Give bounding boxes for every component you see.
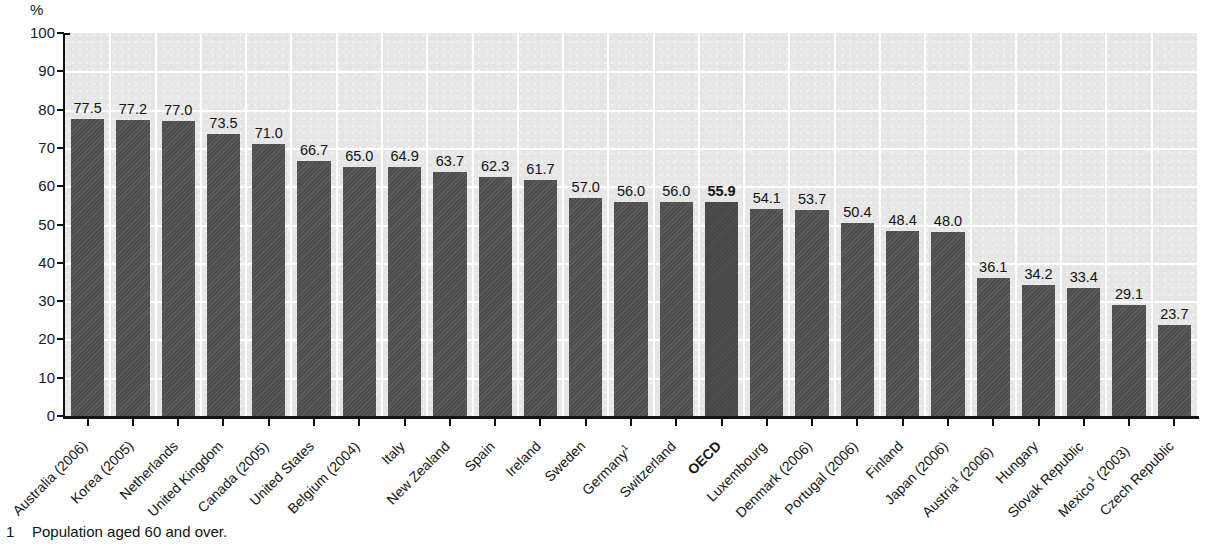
- x-axis-tick: [268, 419, 270, 426]
- y-axis-tick: [57, 415, 64, 417]
- bar: [614, 202, 647, 416]
- y-axis-tick: [57, 70, 64, 72]
- gridline-vertical: [653, 33, 655, 416]
- gridline-vertical: [517, 33, 519, 416]
- gridline-vertical: [472, 33, 474, 416]
- y-axis-tick-label: 30: [9, 293, 55, 308]
- x-axis-category-label: Spain: [462, 439, 498, 475]
- bar: [705, 202, 738, 416]
- bar: [433, 172, 466, 416]
- y-axis-tick-label: 20: [9, 331, 55, 346]
- gridline-vertical: [562, 33, 564, 416]
- bar: [388, 167, 421, 416]
- x-axis-tick: [132, 419, 134, 426]
- y-axis-tick-label: 60: [9, 178, 55, 193]
- bar: [931, 232, 964, 416]
- bar: [750, 209, 783, 416]
- bar: [252, 144, 285, 416]
- x-axis-tick: [539, 419, 541, 426]
- x-axis-category-label: Sweden: [542, 439, 588, 485]
- y-axis-tick: [57, 185, 64, 187]
- footnote-marker: 1: [6, 523, 32, 540]
- y-axis-tick-label: 50: [9, 217, 55, 232]
- gridline-vertical: [109, 33, 111, 416]
- gridline-horizontal: [65, 71, 1197, 73]
- x-axis-tick: [404, 419, 406, 426]
- bar: [841, 223, 874, 416]
- gridline-vertical: [698, 33, 700, 416]
- x-axis-category-label: OECD: [685, 439, 724, 478]
- bar: [795, 210, 828, 416]
- x-axis-tick: [721, 419, 723, 426]
- y-axis-tick: [57, 32, 64, 34]
- bar-value-label: 29.1: [1099, 287, 1159, 302]
- x-axis-tick: [811, 419, 813, 426]
- gridline-vertical: [381, 33, 383, 416]
- gridline-vertical: [788, 33, 790, 416]
- x-axis-tick: [1173, 419, 1175, 426]
- y-axis-tick-label: 100: [9, 25, 55, 40]
- bar-value-label: 71.0: [239, 126, 299, 141]
- bar: [886, 231, 919, 416]
- bar: [569, 198, 602, 416]
- gridline-vertical: [743, 33, 745, 416]
- bar: [71, 119, 104, 416]
- x-axis-tick: [449, 419, 451, 426]
- x-axis-tick: [856, 419, 858, 426]
- x-axis-tick: [992, 419, 994, 426]
- y-axis-tick-label: 90: [9, 63, 55, 78]
- bar: [297, 161, 330, 416]
- x-axis-tick: [358, 419, 360, 426]
- x-axis-category-label: Italy: [379, 439, 408, 468]
- y-axis-tick-label: 70: [9, 140, 55, 155]
- x-axis-category-label: Finland: [863, 439, 906, 482]
- x-axis-tick: [222, 419, 224, 426]
- bar: [116, 120, 149, 416]
- gridline-vertical: [200, 33, 202, 416]
- x-axis-tick: [947, 419, 949, 426]
- bar: [524, 180, 557, 416]
- gridline-vertical: [834, 33, 836, 416]
- bar: [1022, 285, 1055, 416]
- gridline-vertical: [1015, 33, 1017, 416]
- bar-value-label: 23.7: [1144, 307, 1204, 322]
- y-axis-tick: [57, 109, 64, 111]
- y-axis-tick-label: 80: [9, 102, 55, 117]
- gridline-vertical: [1105, 33, 1107, 416]
- x-axis-tick: [1128, 419, 1130, 426]
- x-axis-category-label: Ireland: [503, 439, 544, 480]
- gridline-vertical: [336, 33, 338, 416]
- gridline-horizontal: [65, 110, 1197, 112]
- gridline-vertical: [245, 33, 247, 416]
- x-axis-tick: [1083, 419, 1085, 426]
- gridline-vertical: [1060, 33, 1062, 416]
- y-axis-tick-label: 40: [9, 255, 55, 270]
- x-axis-tick: [1038, 419, 1040, 426]
- bar: [1112, 305, 1145, 416]
- gridline-vertical: [1151, 33, 1153, 416]
- bar: [162, 121, 195, 416]
- x-axis-tick: [494, 419, 496, 426]
- gridline-vertical: [155, 33, 157, 416]
- gridline-vertical: [607, 33, 609, 416]
- footnote-text: Population aged 60 and over.: [32, 523, 227, 540]
- y-axis-tick: [57, 147, 64, 149]
- x-axis-tick: [630, 419, 632, 426]
- gridline-vertical: [426, 33, 428, 416]
- bar: [343, 167, 376, 416]
- bar: [660, 202, 693, 416]
- x-axis-tick: [177, 419, 179, 426]
- bar: [207, 134, 240, 416]
- y-axis-tick-label: 0: [9, 408, 55, 423]
- x-axis-tick: [766, 419, 768, 426]
- bar: [1158, 325, 1191, 416]
- bar: [479, 177, 512, 416]
- bar-value-label: 48.0: [918, 214, 978, 229]
- y-axis-tick: [57, 224, 64, 226]
- bar: [1067, 288, 1100, 416]
- y-axis-line: [63, 33, 65, 418]
- x-axis-tick: [313, 419, 315, 426]
- bar-value-label: 33.4: [1054, 270, 1114, 285]
- y-axis-cap-top: [63, 33, 70, 35]
- gridline-vertical: [290, 33, 292, 416]
